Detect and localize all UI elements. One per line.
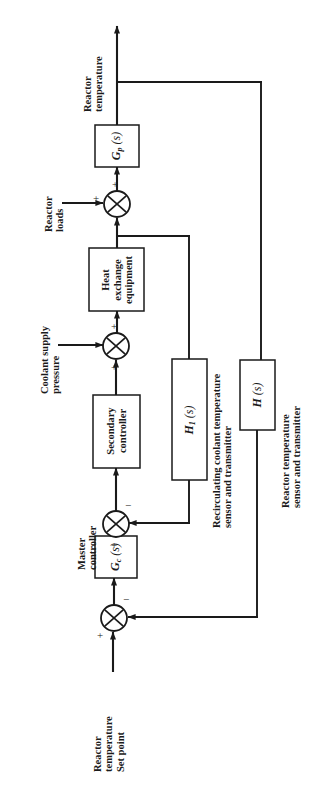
rl-line1: Reactor bbox=[43, 196, 54, 232]
ifc-line1: Recirculating coolant temperature bbox=[211, 374, 222, 528]
csp-line2: pressure bbox=[50, 326, 61, 394]
block-label-secondary-controller: Secondary controller bbox=[105, 407, 128, 454]
label-coolant-supply-pressure: Coolant supply pressure bbox=[39, 326, 62, 394]
block-label-h1-sub: 1 bbox=[188, 421, 197, 425]
sign-master-summer-a: + bbox=[97, 630, 103, 641]
block-label-process-arg: (s) bbox=[109, 132, 123, 145]
block-diagram-figure: + + + + + − + − Gp (s) Heat exchange equ… bbox=[0, 0, 322, 785]
label-master-controller-caption: Master controller bbox=[76, 526, 99, 570]
label-outer-feedback-caption: Reactor temperature sensor and transmitt… bbox=[280, 406, 303, 508]
sc-line2: controller bbox=[117, 409, 128, 453]
sign-master-summer-b: − bbox=[123, 594, 129, 605]
csp-line1: Coolant supply bbox=[39, 326, 50, 394]
block-label-process-main: G bbox=[109, 152, 123, 161]
block-label-h-main: H bbox=[250, 398, 264, 407]
block-label-h1-main: H bbox=[182, 425, 196, 434]
sign-coolant-summer-a: + bbox=[111, 321, 117, 332]
signal-lines bbox=[58, 26, 262, 672]
sp-line3: Set point bbox=[115, 716, 126, 772]
rt-out-line1: Reactor bbox=[82, 56, 93, 112]
block-label-inner-feedback: H1 (s) bbox=[183, 405, 198, 434]
sc-line1: Secondary bbox=[105, 407, 116, 454]
sign-load-summer-b: + bbox=[93, 193, 99, 204]
block-label-process: Gp (s) bbox=[110, 132, 125, 160]
hx-line3: equipment bbox=[123, 256, 134, 304]
ofc-line1: Reactor temperature bbox=[280, 406, 291, 508]
block-label-h-arg: (s) bbox=[250, 382, 264, 395]
label-reactor-temperature-set-point: Reactor temperature Set point bbox=[92, 716, 126, 772]
sign-coolant-summer-b: + bbox=[111, 362, 117, 373]
block-label-h1-arg: (s) bbox=[182, 405, 196, 418]
block-label-heat-exchange: Heat exchange equipment bbox=[100, 256, 135, 304]
block-label-gc-main: G bbox=[108, 562, 122, 571]
sign-load-summer-a: + bbox=[112, 179, 118, 190]
block-label-process-sub: p bbox=[115, 147, 124, 151]
block-label-master-controller: Gc (s) bbox=[109, 543, 124, 571]
block-label-gc-sub: c bbox=[114, 559, 123, 563]
ifc-line2: sensor and transmitter bbox=[222, 374, 233, 528]
sign-secondary-summer-b: − bbox=[125, 500, 131, 511]
sp-line1: Reactor bbox=[92, 716, 103, 772]
ofc-line2: sensor and transmitter bbox=[291, 406, 302, 508]
mc-line1: Master bbox=[76, 526, 87, 570]
rl-line2: loads bbox=[54, 196, 65, 232]
block-label-outer-feedback: H (s) bbox=[251, 382, 266, 407]
hx-line1: Heat bbox=[100, 269, 111, 291]
block-label-gc-arg: (s) bbox=[108, 543, 122, 556]
mc-line2: controller bbox=[87, 526, 98, 570]
hx-line2: exchange bbox=[111, 259, 122, 300]
rt-out-line2: temperature bbox=[93, 56, 104, 112]
label-reactor-loads: Reactor loads bbox=[43, 196, 66, 232]
label-reactor-temperature-output: Reactor temperature bbox=[82, 56, 105, 112]
sp-line2: temperature bbox=[103, 716, 114, 772]
label-inner-feedback-caption: Recirculating coolant temperature sensor… bbox=[211, 374, 234, 528]
